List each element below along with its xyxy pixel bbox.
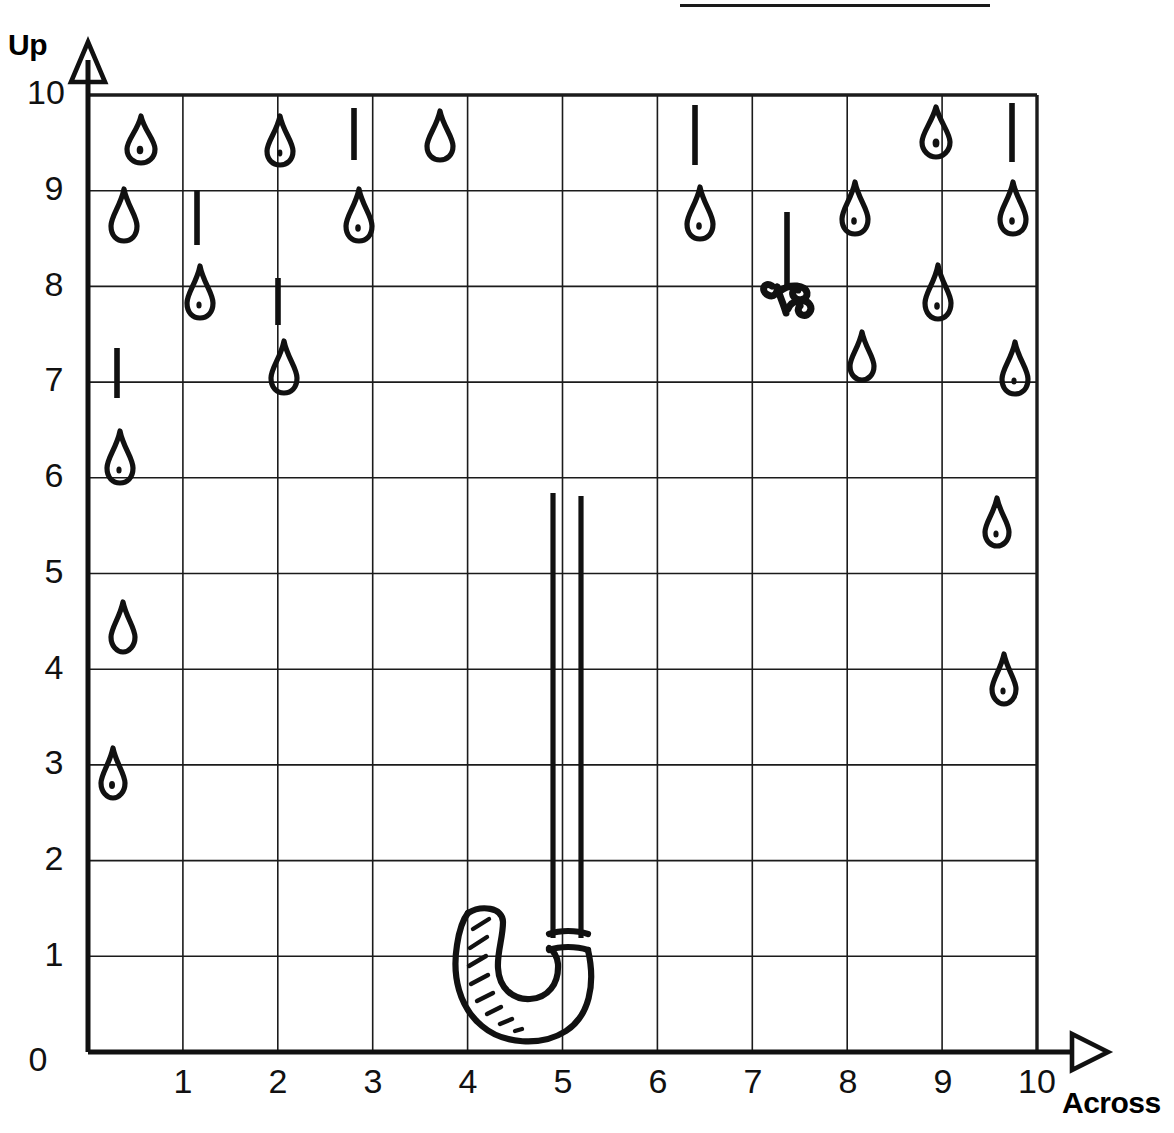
y-tick-5: 5 <box>28 552 80 591</box>
y-tick-6: 6 <box>28 456 80 495</box>
raindrop <box>687 187 713 239</box>
y-tick-0: 0 <box>12 1040 64 1079</box>
x-tick-2: 2 <box>252 1062 304 1101</box>
coordinate-grid-figure <box>0 0 1174 1133</box>
x-tick-8: 8 <box>822 1062 874 1101</box>
raindrop <box>187 266 213 318</box>
x-tick-10: 10 <box>1006 1062 1068 1101</box>
raindrop <box>850 332 874 380</box>
x-tick-7: 7 <box>727 1062 779 1101</box>
raindrop <box>271 341 297 393</box>
y-tick-9: 9 <box>28 169 80 208</box>
x-tick-6: 6 <box>632 1062 684 1101</box>
raindrop <box>111 602 135 652</box>
raindrop <box>1000 182 1026 234</box>
y-tick-2: 2 <box>28 839 80 878</box>
raindrop <box>111 189 137 241</box>
umbrella-handle <box>455 493 591 1041</box>
raindrop <box>127 116 155 163</box>
raindrop <box>267 116 293 165</box>
raindrop <box>101 748 125 798</box>
raindrop <box>842 182 868 234</box>
y-tick-10: 10 <box>20 73 72 112</box>
grid-lines <box>88 95 1037 1052</box>
rain-streaks <box>117 103 1012 398</box>
raindrop <box>107 431 133 483</box>
x-tick-1: 1 <box>157 1062 209 1101</box>
y-tick-3: 3 <box>28 743 80 782</box>
raindrop <box>427 111 453 160</box>
raindrops <box>101 107 1028 798</box>
x-axis-arrow-icon <box>1072 1034 1108 1070</box>
x-tick-5: 5 <box>537 1062 589 1101</box>
raindrop <box>985 498 1009 546</box>
raindrop <box>925 265 951 319</box>
x-tick-4: 4 <box>442 1062 494 1101</box>
splash-icon <box>764 285 811 316</box>
y-tick-4: 4 <box>28 648 80 687</box>
umbrella-hatching <box>469 919 522 1031</box>
x-tick-9: 9 <box>917 1062 969 1101</box>
raindrop <box>1002 342 1028 394</box>
y-tick-1: 1 <box>28 935 80 974</box>
raindrop <box>922 107 950 157</box>
y-tick-7: 7 <box>28 360 80 399</box>
raindrop <box>992 654 1016 704</box>
raindrop <box>346 189 372 241</box>
x-tick-3: 3 <box>347 1062 399 1101</box>
y-tick-8: 8 <box>28 265 80 304</box>
